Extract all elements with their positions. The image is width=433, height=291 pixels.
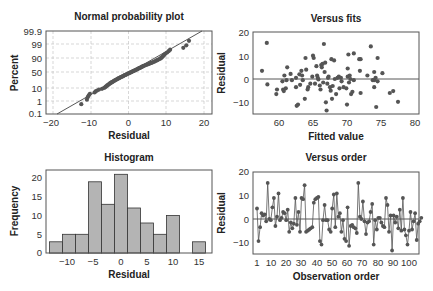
vorder-point <box>341 218 345 222</box>
vorder-point <box>355 231 359 235</box>
vorder-point <box>375 228 379 232</box>
vfits-point <box>346 66 350 70</box>
vfits-point <box>369 44 373 48</box>
svg-text:−20: −20 <box>43 117 59 128</box>
vorder-point <box>257 239 261 243</box>
vfits-point <box>299 69 303 73</box>
vorder-point <box>294 196 298 200</box>
npp-x-ticks: −20 −10 0 10 20 <box>43 117 209 128</box>
svg-text:1: 1 <box>254 257 259 268</box>
vfits-point <box>323 61 327 65</box>
vfits-point <box>391 89 395 93</box>
vorder-point <box>298 230 302 234</box>
vorder-point <box>361 200 365 204</box>
svg-text:60: 60 <box>342 257 353 268</box>
vfits-point <box>300 73 304 77</box>
vfits-point <box>332 58 336 62</box>
vorder-point <box>275 215 279 219</box>
vorder-point <box>380 221 384 225</box>
vfits-point <box>372 85 376 89</box>
vfits-point <box>301 78 305 82</box>
vfits-point <box>396 100 400 104</box>
vfits-point <box>303 56 307 60</box>
svg-text:90: 90 <box>31 53 42 64</box>
vorder-point <box>333 225 337 229</box>
svg-text:0: 0 <box>126 117 131 128</box>
vorder-x-ticks: 1 10 20 30 40 50 60 70 80 90 100 <box>254 257 417 268</box>
svg-text:0.1: 0.1 <box>29 108 42 119</box>
vfits-y-ticks: 20 10 0 −10 <box>233 27 249 108</box>
hist-bar <box>141 223 154 253</box>
vfits-point <box>308 82 312 86</box>
hist-bar <box>128 208 141 253</box>
residual-plots-figure: Normal probability plot 99.9 99 90 50 10… <box>0 0 433 291</box>
vfits-point <box>350 90 354 94</box>
vfits-point <box>296 103 300 107</box>
svg-text:15: 15 <box>194 256 205 267</box>
vorder-point <box>340 230 344 234</box>
vfits-point <box>290 78 294 82</box>
vfits-frame <box>253 32 419 114</box>
vfits-point <box>329 89 333 93</box>
svg-text:65: 65 <box>308 117 319 128</box>
vfits-point <box>314 64 318 68</box>
vfits-title: Versus fits <box>311 13 362 24</box>
vfits-point <box>374 105 378 109</box>
svg-text:99: 99 <box>31 39 42 50</box>
vorder-point <box>367 219 371 223</box>
vorder-point <box>317 195 321 199</box>
vorder-point <box>338 211 342 215</box>
vfits-point <box>346 52 350 56</box>
npp-x-label: Residual <box>108 130 150 141</box>
vorder-point <box>419 216 423 220</box>
hist-bar <box>193 242 206 253</box>
vorder-point <box>266 181 270 185</box>
npp-points <box>79 39 191 107</box>
svg-text:1: 1 <box>37 96 42 107</box>
hist-title: Histogram <box>104 152 154 163</box>
vfits-point <box>298 83 302 87</box>
vorder-point <box>353 226 357 230</box>
npp-y-label: Percent <box>9 54 20 91</box>
vfits-point <box>365 73 369 77</box>
vorder-point <box>290 226 294 230</box>
vorder-point <box>263 212 267 216</box>
vfits-point <box>323 70 327 74</box>
vorder-point <box>318 239 322 243</box>
svg-text:10: 10 <box>238 190 249 201</box>
vorder-point <box>395 215 399 219</box>
vfits-point <box>327 75 331 79</box>
vorder-point <box>271 205 275 209</box>
vorder-point <box>330 207 334 211</box>
vorder-point <box>301 197 305 201</box>
npp-point <box>168 48 172 52</box>
vorder-point <box>401 196 405 200</box>
vorder-point <box>406 243 410 247</box>
hist-x-ticks: −10 −5 0 5 10 15 <box>59 256 204 267</box>
npp-point <box>187 39 191 43</box>
vorder-point <box>329 230 333 234</box>
vorder-point <box>347 244 351 248</box>
hist-bar <box>50 242 63 253</box>
vfits-point <box>284 86 288 90</box>
vfits-point <box>380 71 384 75</box>
svg-text:70: 70 <box>342 117 353 128</box>
vfits-point <box>334 92 338 96</box>
vorder-point <box>390 249 394 253</box>
vorder-x-label: Observation order <box>293 271 380 282</box>
vorder-point <box>360 217 364 221</box>
svg-text:−10: −10 <box>233 97 249 108</box>
vfits-point <box>358 69 362 73</box>
vfits-point <box>372 70 376 74</box>
vorder-point <box>412 219 416 223</box>
vorder-y-label: Residual <box>216 192 227 234</box>
vorder-point <box>403 228 407 232</box>
vfits-point <box>294 76 298 80</box>
hist-y-label: Frequency <box>9 185 20 236</box>
vorder-point <box>310 225 314 229</box>
svg-text:30: 30 <box>296 257 307 268</box>
vorder-point <box>372 243 376 247</box>
vorder-point <box>277 192 281 196</box>
vfits-point <box>289 72 293 76</box>
hist-bar <box>115 174 128 253</box>
